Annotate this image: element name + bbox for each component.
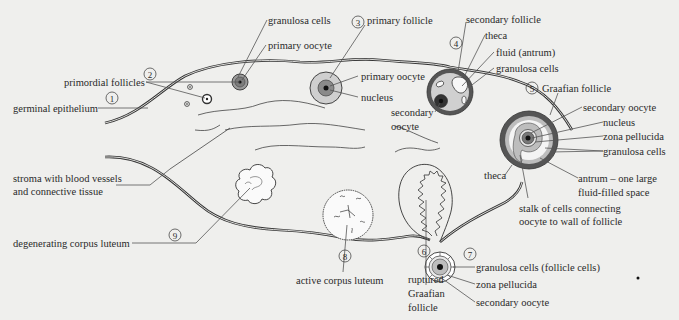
- label-nucleus-graafian: nucleus: [603, 117, 635, 128]
- label-primary-oocyte: primary oocyte: [361, 71, 425, 82]
- label-theca-graafian: theca: [484, 170, 506, 181]
- label-antrum-line2: fluid-filled space: [578, 187, 650, 198]
- ink-dot: [637, 277, 640, 280]
- stage-number-3: 3: [352, 16, 364, 28]
- svg-text:4: 4: [454, 39, 459, 49]
- active-corpus-luteum: [323, 190, 373, 240]
- primordial-follicles: [185, 85, 212, 107]
- label-secondary-oocyte-ovulated: secondary oocyte: [476, 297, 550, 308]
- svg-text:1: 1: [110, 94, 115, 104]
- label-germinal-epithelium: germinal epithelium: [13, 103, 98, 114]
- label-ruptured-line3: follicle: [408, 302, 438, 313]
- ruptured-graafian-follicle: [399, 164, 452, 242]
- label-stroma-line1: stroma with blood vessels: [13, 173, 122, 184]
- primary-follicle: [310, 72, 342, 104]
- svg-text:5: 5: [530, 84, 535, 94]
- stage-number-9: 9: [169, 229, 181, 241]
- label-stroma-line2: and connective tissue: [13, 186, 103, 197]
- label-ruptured-line2: Graafian: [408, 288, 445, 299]
- stage-number-7: 7: [464, 248, 476, 260]
- label-stalk-line2: oocyte to wall of follicle: [519, 216, 623, 227]
- ovary-diagram: 1 2 3 4 5 6 7 8 9 germinal epithelium pr…: [0, 0, 679, 320]
- stage-number-5: 5: [526, 82, 538, 94]
- stage-number-6: 6: [418, 245, 430, 257]
- svg-text:2: 2: [148, 70, 153, 80]
- svg-text:9: 9: [173, 231, 178, 241]
- label-granulosa-follicle-cells: granulosa cells (follicle cells): [476, 262, 600, 274]
- svg-text:3: 3: [356, 18, 361, 28]
- label-secondary-oocyte-line1: secondary: [391, 107, 434, 118]
- label-secondary-follicle: secondary follicle: [466, 14, 541, 25]
- label-fluid-antrum: fluid (antrum): [496, 47, 556, 59]
- stage-number-8: 8: [339, 250, 351, 262]
- label-degenerating-corpus-luteum: degenerating corpus luteum: [13, 238, 130, 249]
- label-active-corpus-luteum: active corpus luteum: [296, 275, 383, 286]
- svg-text:8: 8: [343, 252, 348, 262]
- label-nucleus-primary: nucleus: [361, 92, 393, 103]
- label-antrum-line1: antrum – one large: [578, 173, 657, 184]
- label-secondary-oocyte-graafian: secondary oocyte: [583, 102, 657, 113]
- label-graafian-follicle: Graafian follicle: [542, 83, 611, 94]
- ovary-wall-right: [440, 182, 522, 242]
- stage-number-4: 4: [450, 37, 462, 49]
- graafian-follicle: [500, 111, 558, 169]
- stage-number-1: 1: [106, 92, 118, 104]
- label-primary-oocyte-top: primary oocyte: [268, 40, 332, 51]
- label-theca-secondary: theca: [485, 30, 507, 41]
- degenerating-corpus-luteum: [236, 164, 276, 203]
- label-granulosa-cells-secondary: granulosa cells: [496, 63, 559, 74]
- svg-text:6: 6: [422, 247, 427, 257]
- secondary-follicle: [427, 69, 473, 115]
- label-primary-follicle: primary follicle: [367, 15, 433, 26]
- label-granulosa-cells-graafian: granulosa cells: [603, 146, 666, 157]
- label-ruptured-line1: ruptured: [408, 274, 444, 285]
- label-zona-pellucida-graafian: zona pellucida: [603, 131, 664, 142]
- label-zona-pellucida-ovulated: zona pellucida: [476, 279, 537, 290]
- label-secondary-oocyte-line2: oocyte: [391, 121, 419, 132]
- svg-text:7: 7: [468, 250, 473, 260]
- label-granulosa-cells-top: granulosa cells: [268, 15, 331, 26]
- label-primordial-follicles: primordial follicles: [64, 77, 145, 88]
- label-stalk-line1: stalk of cells connecting: [519, 203, 622, 214]
- stage-number-2: 2: [144, 68, 156, 80]
